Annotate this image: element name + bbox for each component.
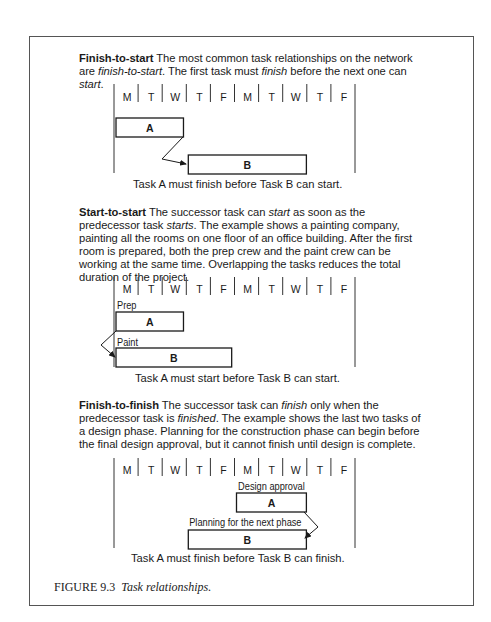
day-label: W	[170, 91, 180, 103]
day-label: W	[291, 283, 301, 295]
svg-text:A: A	[146, 316, 154, 328]
day-label: T	[196, 283, 203, 295]
caption-start-to-start: Task A must start before Task B can star…	[135, 372, 340, 384]
day-label: T	[196, 464, 203, 476]
day-label: T	[317, 91, 324, 103]
caption-finish-to-finish: Task A must finish before Task B can fin…	[131, 552, 345, 564]
gantt-diagrams: MTWTFMTWTFAB MTWTFMTWTFAPrepBPaint MTWTF…	[0, 0, 491, 622]
day-label: M	[123, 464, 132, 476]
svg-text:B: B	[170, 352, 178, 364]
day-label: F	[220, 464, 226, 476]
svg-text:Design approval: Design approval	[238, 480, 305, 492]
dependency-arrow	[162, 137, 186, 164]
svg-text:B: B	[244, 534, 252, 546]
day-label: T	[268, 283, 275, 295]
day-label: T	[268, 91, 275, 103]
svg-text:Prep: Prep	[117, 299, 137, 311]
svg-text:B: B	[244, 159, 252, 171]
day-label: F	[220, 283, 226, 295]
day-label: W	[291, 464, 301, 476]
day-label: T	[268, 464, 275, 476]
day-label: T	[317, 283, 324, 295]
day-label: F	[341, 91, 347, 103]
day-label: T	[317, 464, 324, 476]
day-label: T	[148, 91, 155, 103]
day-label: M	[243, 464, 252, 476]
day-label: F	[341, 464, 347, 476]
day-label: T	[148, 464, 155, 476]
figure-title: Task relationships.	[121, 580, 211, 594]
day-label: F	[341, 283, 347, 295]
chart-finish-to-start: MTWTFMTWTFAB	[114, 84, 355, 174]
day-label: M	[243, 91, 252, 103]
day-label: W	[170, 464, 180, 476]
chart-finish-to-finish: MTWTFMTWTFADesign approvalBPlanning for …	[114, 458, 355, 549]
svg-text:Paint: Paint	[117, 336, 138, 348]
svg-text:A: A	[268, 497, 276, 509]
day-label: F	[220, 91, 226, 103]
caption-finish-to-start: Task A must finish before Task B can sta…	[133, 178, 342, 190]
day-label: T	[196, 91, 203, 103]
day-label: W	[291, 91, 301, 103]
day-label: M	[243, 283, 252, 295]
chart-start-to-start: MTWTFMTWTFAPrepBPaint	[101, 277, 355, 367]
figure-number: FIGURE 9.3	[54, 580, 115, 594]
day-label: T	[148, 283, 155, 295]
svg-text:A: A	[146, 122, 154, 134]
day-label: M	[123, 91, 132, 103]
svg-text:Planning for the next phase: Planning for the next phase	[189, 516, 302, 528]
day-label: M	[123, 283, 132, 295]
figure-caption: FIGURE 9.3Task relationships.	[54, 580, 211, 595]
day-label: W	[170, 283, 180, 295]
